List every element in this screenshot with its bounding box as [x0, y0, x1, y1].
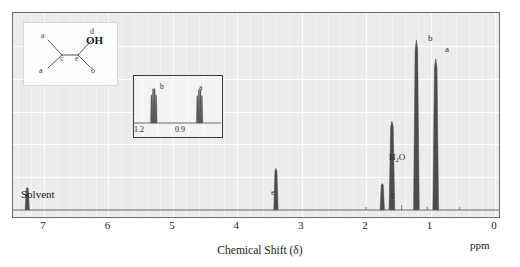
peak-label-b: b: [428, 34, 433, 43]
water-label: H2O: [389, 153, 405, 162]
expansion-peak-line-b: [155, 95, 157, 123]
nmr-plot-area: Solvent H2O e c b a a a c e b d OH: [12, 12, 500, 218]
structure-label-a-left: a: [41, 31, 45, 40]
solvent-label: Solvent: [21, 189, 55, 200]
axis-tick-labels: 76543210: [0, 220, 520, 234]
axis-tick-label-5: 5: [169, 220, 175, 231]
peak-label-e: e: [271, 188, 275, 197]
axis-title: Chemical Shift (δ): [0, 245, 520, 257]
axis-tick-label-4: 4: [234, 220, 240, 231]
ppm-unit-label: ppm: [470, 240, 490, 251]
expansion-tick-1: 1.2: [126, 126, 152, 134]
expansion-peak-line-a: [201, 95, 203, 123]
baseline-noise: [401, 205, 402, 210]
structure-label-b: b: [91, 66, 95, 75]
structure-inset: a a c e b d OH: [23, 22, 118, 86]
water-h: H: [389, 152, 396, 162]
expansion-tick-labels: 1.2 0.9: [120, 126, 210, 138]
axis-tick-label-1: 1: [427, 220, 433, 231]
water-o: O: [399, 152, 406, 162]
axis-tick-label-3: 3: [298, 220, 304, 231]
expansion-peak-label-a: a: [199, 84, 202, 92]
structure-label-oh: OH: [86, 34, 104, 46]
structure-label-a-lower: a: [39, 66, 43, 75]
water-subscript: 2: [396, 156, 399, 163]
axis-tick-label-2: 2: [362, 220, 368, 231]
expansion-peak-label-b: b: [160, 83, 164, 91]
peak-c: [380, 184, 384, 210]
peak-a: [433, 59, 439, 210]
peak-b: [414, 40, 420, 210]
structure-label-e: e: [75, 54, 79, 63]
expansion-tick-2: 0.9: [167, 126, 193, 134]
peak-label-a: a: [445, 45, 449, 54]
axis-tick-label-0: 0: [491, 220, 497, 231]
peak-label-c: c: [391, 191, 395, 200]
structure-label-c: c: [60, 54, 64, 63]
axis-tick-label-6: 6: [105, 220, 111, 231]
molecule-drawing: a a c e b d OH: [24, 23, 117, 85]
axis-tick-label-7: 7: [40, 220, 46, 231]
expansion-peaks-group: [151, 89, 203, 123]
